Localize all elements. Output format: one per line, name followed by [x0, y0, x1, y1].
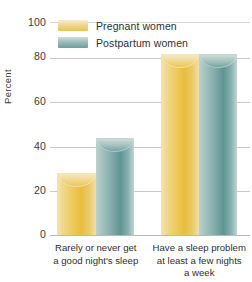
x-label-line: a week	[148, 267, 252, 280]
bar-body	[96, 138, 134, 235]
plot-area	[50, 22, 250, 236]
x-label-line: a good night's sleep	[44, 255, 148, 268]
legend-item-postpartum: Postpartum women	[58, 35, 188, 50]
bar-top-edge	[161, 54, 199, 57]
x-label-group-2: Have a sleep problem at least a few nigh…	[148, 242, 252, 280]
axis-baseline	[50, 235, 250, 236]
bar-top-edge	[96, 138, 134, 141]
legend-label-postpartum: Postpartum women	[96, 37, 188, 49]
x-label-line: Have a sleep problem	[148, 242, 252, 255]
bar-body	[161, 54, 199, 235]
x-axis-labels: Rarely or never get a good night's sleep…	[44, 242, 251, 280]
legend-label-pregnant: Pregnant women	[96, 20, 177, 32]
bar-top-edge	[57, 173, 96, 176]
bar-body	[199, 54, 237, 235]
chart-legend: Pregnant women Postpartum women	[58, 18, 188, 52]
bar-chart: Percent 100 80 60 40 20 0	[0, 0, 251, 282]
legend-swatch-pregnant	[58, 20, 88, 31]
y-axis-title: Percent	[2, 69, 13, 104]
bar-top-edge	[199, 54, 237, 57]
bar-pregnant-sleepproblem	[161, 54, 199, 235]
legend-swatch-postpartum	[58, 37, 88, 48]
x-label-group-1: Rarely or never get a good night's sleep	[44, 242, 148, 280]
bar-postpartum-sleepproblem	[199, 54, 237, 235]
x-label-line: Rarely or never get	[44, 242, 148, 255]
bar-pregnant-rarely	[57, 173, 96, 235]
legend-item-pregnant: Pregnant women	[58, 18, 188, 33]
x-label-line: at least a few nights	[148, 255, 252, 268]
bar-postpartum-rarely	[96, 138, 134, 235]
